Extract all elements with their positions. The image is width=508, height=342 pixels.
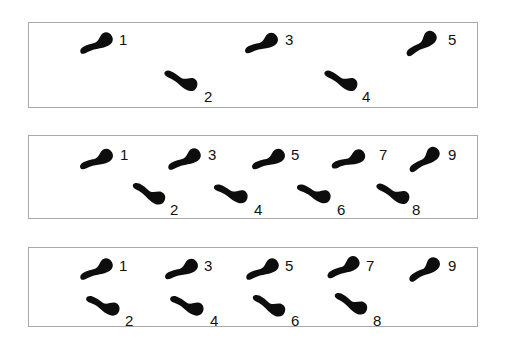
footprint-icon bbox=[403, 26, 442, 62]
footprint-number-label: 8 bbox=[373, 313, 381, 328]
footprint-icon bbox=[405, 252, 444, 287]
footprint-number-label: 9 bbox=[448, 147, 456, 162]
footprint-icon bbox=[167, 291, 208, 318]
footprint-number-label: 7 bbox=[379, 147, 387, 162]
footprint-icon bbox=[129, 178, 170, 208]
gait-panel-1: 12345 bbox=[28, 22, 478, 108]
footprint-number-label: 1 bbox=[119, 32, 127, 47]
footprint-icon bbox=[77, 28, 117, 60]
footprint-icon bbox=[406, 142, 445, 178]
footprint-number-label: 2 bbox=[204, 89, 212, 104]
footprint-number-label: 4 bbox=[210, 313, 218, 328]
gait-panel-2: 123456789 bbox=[28, 135, 478, 219]
footprint-number-label: 1 bbox=[120, 147, 128, 162]
footprint-number-label: 5 bbox=[285, 258, 293, 273]
footprint-number-label: 8 bbox=[412, 202, 420, 217]
footprint-number-label: 7 bbox=[366, 258, 374, 273]
footprint-number-label: 4 bbox=[362, 89, 370, 104]
footprint-icon bbox=[242, 28, 283, 59]
footprint-figure: 12345123456789123456789 bbox=[0, 0, 508, 342]
footprint-icon bbox=[165, 144, 205, 176]
footprint-number-label: 5 bbox=[448, 32, 456, 47]
footprint-icon bbox=[329, 145, 370, 175]
footprint-icon bbox=[249, 290, 290, 320]
footprint-icon bbox=[324, 252, 364, 285]
footprint-number-label: 2 bbox=[125, 313, 133, 328]
footprint-icon bbox=[83, 291, 124, 318]
footprint-number-label: 2 bbox=[170, 202, 178, 217]
footprint-number-label: 3 bbox=[208, 147, 216, 162]
footprint-number-label: 3 bbox=[204, 258, 212, 273]
footprint-number-label: 1 bbox=[119, 258, 127, 273]
footprint-icon bbox=[243, 254, 283, 286]
footprint-number-label: 6 bbox=[291, 313, 299, 328]
footprint-icon bbox=[162, 254, 203, 285]
footprint-number-label: 9 bbox=[448, 258, 456, 273]
footprint-number-label: 4 bbox=[254, 202, 262, 217]
footprint-icon bbox=[77, 144, 118, 175]
footprint-icon bbox=[77, 254, 117, 286]
footprint-icon bbox=[294, 180, 335, 206]
footprint-icon bbox=[373, 179, 414, 207]
footprint-number-label: 6 bbox=[337, 202, 345, 217]
footprint-icon bbox=[161, 66, 202, 94]
footprint-icon bbox=[331, 288, 372, 318]
footprint-number-label: 3 bbox=[285, 32, 293, 47]
footprint-number-label: 5 bbox=[291, 147, 299, 162]
gait-panel-3: 123456789 bbox=[28, 247, 478, 327]
footprint-icon bbox=[249, 144, 290, 175]
footprint-icon bbox=[211, 180, 252, 206]
footprint-icon bbox=[321, 66, 362, 94]
